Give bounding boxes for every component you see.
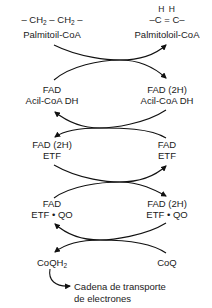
arrow-etfqo-reduced-to-oxidized [55, 223, 166, 240]
arrow-etf-reduced-to-oxidized [54, 165, 166, 182]
arrow-etfqo-oxidized-to-reduced [54, 182, 166, 198]
arrow-fad2h-to-fad [55, 110, 166, 128]
arrow-fad-to-fad2h-etf [55, 128, 166, 138]
arrow-palmitoil-to-palmitoloil [54, 45, 166, 60]
reaction-arrows [0, 0, 212, 308]
arrow-coq-to-coqh2 [55, 240, 166, 253]
arrow-to-electron-transport-chain [50, 269, 70, 286]
arrow-fad-to-fad2h [54, 60, 166, 80]
